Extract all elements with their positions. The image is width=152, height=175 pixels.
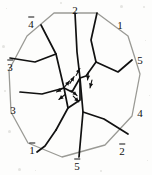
label-glyph: 2 <box>72 5 78 16</box>
arrow-head <box>70 75 76 81</box>
texture-speck <box>35 170 36 171</box>
arrow-4 <box>85 72 90 80</box>
texture-speck <box>147 160 148 161</box>
arrow-2 <box>68 75 76 84</box>
edge-c <box>91 13 97 62</box>
label-glyph: 3 <box>7 62 13 73</box>
decagon-outline <box>9 13 140 157</box>
edge-a <box>75 13 80 78</box>
label-glyph: 1 <box>29 145 35 156</box>
texture-speck <box>18 168 21 171</box>
texture-speck <box>6 8 7 9</box>
label-glyph: 4 <box>28 19 34 30</box>
decagon-boundary <box>9 13 140 157</box>
label-1-top-right: 1 <box>117 20 123 31</box>
texture-speck <box>4 90 6 92</box>
edge-f <box>83 112 128 134</box>
texture-speck <box>2 45 5 48</box>
texture-speck <box>100 170 102 172</box>
label-glyph: 2 <box>119 146 125 157</box>
arrow-3 <box>63 80 71 89</box>
label-5-bar-bottom: 5 <box>74 159 80 172</box>
label-2-bar-bottom-right: 2 <box>119 144 125 157</box>
label-4-right: 4 <box>137 108 143 119</box>
texture-speck <box>8 130 11 133</box>
label-2-top: 2 <box>72 5 78 16</box>
decagon-diagram <box>0 0 152 175</box>
texture-speck <box>143 6 145 8</box>
edge-k <box>37 130 56 152</box>
edge-g <box>41 25 64 88</box>
arrow-1 <box>74 67 81 76</box>
label-glyph: 4 <box>137 108 143 119</box>
label-4-bar-top-left: 4 <box>28 17 34 30</box>
label-5-right: 5 <box>137 55 143 66</box>
edge-d <box>96 60 132 72</box>
label-glyph: 5 <box>74 161 80 172</box>
edge-h <box>56 88 68 130</box>
label-glyph: 5 <box>137 55 143 66</box>
texture-speck <box>60 2 62 4</box>
arrow-5 <box>88 80 94 89</box>
label-3-bar-left-upper: 3 <box>7 60 13 73</box>
texture-speck <box>120 5 123 8</box>
label-glyph: 3 <box>10 105 16 116</box>
label-3-left-lower: 3 <box>10 105 16 116</box>
figure-canvas: 2154251334 <box>0 0 152 175</box>
label-glyph: 1 <box>117 20 123 31</box>
texture-speck <box>149 95 150 96</box>
label-1-bar-bottom-left: 1 <box>29 143 35 156</box>
texture-speck <box>145 40 146 41</box>
